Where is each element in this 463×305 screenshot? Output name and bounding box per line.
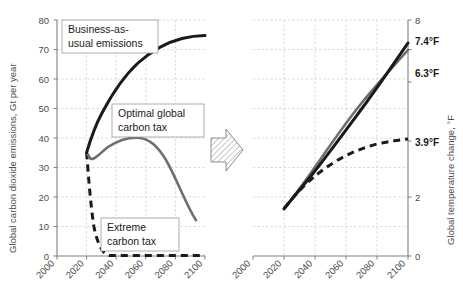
- emissions-chart: 80 70 60 50 40 30 20 10 0 Global carbon …: [7, 15, 205, 281]
- temperature-end-label-extreme: 3.9°F: [415, 137, 439, 148]
- temperature-xtick-2100: 2100: [385, 258, 408, 281]
- temperature-y-axis-title: Global temperature change, °F: [445, 115, 456, 245]
- temperature-xtick-2000: 2000: [230, 258, 253, 281]
- temperature-ytick-2: 2: [415, 192, 420, 203]
- temperature-xtick-2060: 2060: [323, 258, 346, 281]
- temperature-end-label-optimal: 6.3°F: [415, 68, 439, 79]
- callout-optimal-carbon-tax: Optimal global carbon tax: [112, 104, 204, 137]
- callout-optimal-line1: Optimal global: [118, 107, 185, 119]
- emissions-ytick-30: 30: [38, 162, 49, 173]
- emissions-y-axis-title: Global carbon dioxide emissions, Gt per …: [7, 63, 18, 253]
- emissions-ytick-70: 70: [38, 44, 49, 55]
- emissions-xtick-2060: 2060: [122, 258, 145, 281]
- emissions-ytick-20: 20: [38, 192, 49, 203]
- temperature-xtick-2040: 2040: [292, 258, 315, 281]
- callout-bau-line1: Business-as-: [68, 23, 129, 35]
- temperature-xtick-2080: 2080: [354, 258, 377, 281]
- callout-optimal-line2: carbon tax: [118, 121, 168, 133]
- emissions-ytick-80: 80: [38, 15, 49, 26]
- callout-bau-line2: usual emissions: [68, 37, 143, 49]
- emissions-xtick-2000: 2000: [34, 258, 57, 281]
- emissions-ytick-40: 40: [38, 133, 49, 144]
- emissions-xtick-2080: 2080: [152, 258, 175, 281]
- callout-extreme-line2: carbon tax: [107, 235, 157, 247]
- temperature-end-label-bau: 7.4°F: [415, 36, 439, 47]
- emissions-ytick-60: 60: [38, 74, 49, 85]
- callout-extreme-carbon-tax: Extreme carbon tax: [101, 218, 179, 251]
- emissions-xtick-2100: 2100: [182, 258, 205, 281]
- temperature-ytick-8: 8: [415, 15, 420, 26]
- emissions-curve-optimal: [87, 138, 196, 220]
- callout-extreme-line1: Extreme: [107, 221, 146, 233]
- emissions-xtick-2040: 2040: [93, 258, 116, 281]
- temperature-xtick-2020: 2020: [261, 258, 284, 281]
- emissions-xtick-2020: 2020: [63, 258, 86, 281]
- temperature-ytick-0: 0: [415, 251, 420, 262]
- temperature-gridlines: [253, 20, 408, 256]
- temperature-chart: 8 2 0 7.4°F 6.3°F 3.9°F Global temperatu…: [230, 15, 456, 281]
- climate-figure: 80 70 60 50 40 30 20 10 0 Global carbon …: [0, 0, 463, 305]
- transition-arrow: [211, 129, 243, 171]
- emissions-ytick-50: 50: [38, 103, 49, 114]
- emissions-ytick-10: 10: [38, 221, 49, 232]
- callout-business-as-usual: Business-as- usual emissions: [62, 20, 158, 53]
